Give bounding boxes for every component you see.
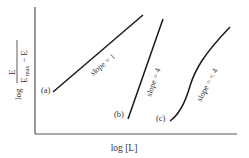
svg-text:log: log	[13, 88, 23, 100]
label-a: (a)	[41, 85, 51, 95]
curve-c	[170, 27, 230, 121]
svg-text:E: E	[19, 77, 29, 83]
label-c: (c)	[156, 113, 166, 123]
label-b: (b)	[114, 109, 124, 119]
hill-plot-diagram: log E E max − E log [L] (a) slope = 1 (b…	[0, 0, 249, 158]
svg-text:E: E	[7, 69, 17, 75]
slope-label-a: slope = 1	[89, 52, 117, 78]
slope-label-b: slope = 4	[144, 67, 162, 98]
svg-text:− E: − E	[19, 50, 29, 63]
x-axis-label: log [L]	[111, 143, 138, 153]
svg-text:max: max	[24, 66, 30, 76]
slope-label-c: slope = < 4	[195, 67, 220, 103]
line-a	[53, 15, 143, 92]
y-axis-label: log E E max − E	[7, 40, 30, 100]
